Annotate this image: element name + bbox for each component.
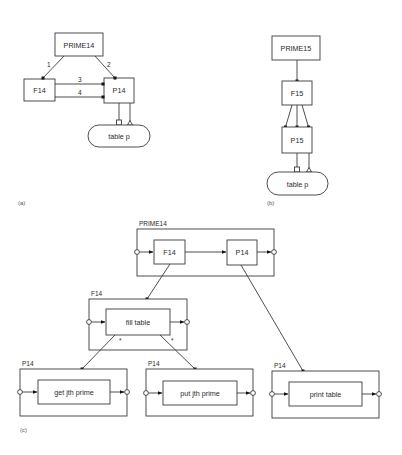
edge-3-label: 3	[78, 76, 82, 83]
fill-table-label: fill table	[126, 318, 150, 327]
square-terminal-icon	[295, 167, 300, 172]
edge-4-dot-icon	[102, 96, 105, 99]
p15-label: P15	[291, 136, 304, 145]
prime15-label: PRIME15	[281, 44, 312, 53]
f15-p15-edge-3	[302, 105, 309, 127]
entry-port-icon	[18, 390, 23, 395]
entry-port-icon	[135, 250, 140, 255]
edge-1-dot-icon	[42, 77, 45, 80]
triangle-terminal-icon	[128, 121, 133, 126]
f15-label: F15	[291, 89, 303, 98]
edge-2-label: 2	[107, 61, 111, 68]
panel-c: PRIME14 F14 P14 F14 fill table * * P14	[18, 220, 382, 433]
triangle-terminal-icon	[307, 168, 312, 173]
edge-1-label: 1	[47, 61, 51, 68]
exit-port-icon	[125, 390, 130, 395]
table-p-label: table p	[108, 132, 130, 141]
exit-port-icon	[251, 391, 256, 396]
caption-c: (c)	[20, 427, 27, 433]
put-jth-prime-label: put jth prime	[180, 389, 220, 398]
exit-port-icon	[185, 320, 190, 325]
f15-p15-edge-1	[286, 105, 293, 127]
entry-port-icon	[87, 320, 92, 325]
edge-3-dot-icon	[102, 83, 105, 86]
prime14-outer-label: PRIME14	[139, 220, 167, 227]
caption-b: (b)	[267, 200, 274, 206]
edge-2	[95, 56, 115, 78]
get-outer-label: P14	[22, 360, 34, 367]
f14-inner-label: F14	[163, 248, 175, 257]
prime14-label: PRIME14	[64, 41, 95, 50]
p14-inner-label: P14	[236, 248, 249, 257]
put-outer-label: P14	[148, 360, 160, 367]
print-outer-label: P14	[274, 362, 286, 369]
edge-4-label: 4	[78, 89, 82, 96]
exit-port-icon	[272, 250, 277, 255]
refine-p14-print-edge	[241, 265, 303, 371]
p14-label: P14	[113, 86, 126, 95]
entry-port-icon	[144, 391, 149, 396]
diagram-canvas: PRIME14 F14 P14 1 2 3 4 table p (a) PRIM…	[0, 0, 402, 455]
exit-port-icon	[377, 392, 382, 397]
caption-a: (a)	[18, 200, 25, 206]
f14-outer-label: F14	[91, 290, 103, 297]
get-jth-prime-label: get jth prime	[54, 388, 94, 397]
entry-port-icon	[270, 392, 275, 397]
panel-a: PRIME14 F14 P14 1 2 3 4 table p (a)	[18, 33, 150, 206]
square-terminal-icon	[117, 120, 122, 125]
edge-2-dot-icon	[114, 77, 117, 80]
table-p-label: table p	[287, 180, 309, 189]
panel-b: PRIME15 F15 P15 table p (b)	[267, 36, 328, 206]
f14-label: F14	[33, 86, 45, 95]
print-table-label: print table	[310, 390, 342, 399]
